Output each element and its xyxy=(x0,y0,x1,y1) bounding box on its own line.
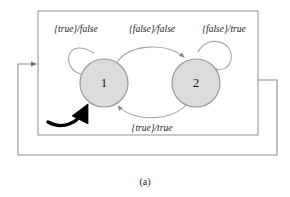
transition-label-self-loop-2: {false}/true xyxy=(202,24,245,34)
state-label-1: 1 xyxy=(101,75,108,90)
initial-state-arrow xyxy=(48,108,86,126)
outer-feedback-loop xyxy=(18,64,277,155)
state-label-2: 2 xyxy=(193,75,200,90)
state-machine-figure: 1 2 {true}/false {false}/false {false}/t… xyxy=(0,0,290,197)
transition-label-one-to-two: {false}/false xyxy=(129,24,175,34)
transition-label-two-to-one: {true}/true xyxy=(132,123,173,133)
figure-caption: (a) xyxy=(139,176,150,188)
transition-label-self-loop-1: {true}/false xyxy=(54,24,97,34)
transition-one-to-two xyxy=(117,47,184,62)
transition-two-to-one xyxy=(118,103,188,118)
state-diagram: 1 2 {true}/false {false}/false {false}/t… xyxy=(0,0,290,197)
